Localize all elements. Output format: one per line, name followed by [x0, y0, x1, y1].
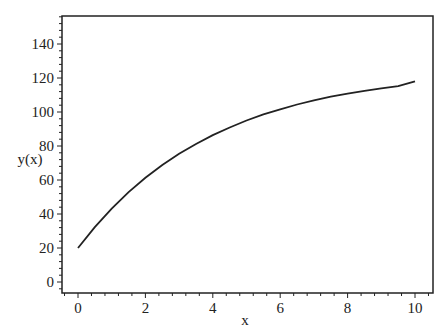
y-tick-label: 60: [39, 172, 54, 188]
y-tick-label: 120: [32, 70, 55, 86]
x-axis-title: x: [241, 312, 249, 328]
x-tick-label: 0: [74, 300, 82, 316]
y-tick-label: 0: [47, 274, 55, 290]
y-tick-label: 40: [39, 206, 54, 222]
line-chart: 020406080100120140 0246810 x y(x): [0, 0, 446, 334]
data-line: [78, 81, 415, 248]
y-tick-label: 140: [32, 36, 55, 52]
x-tick-label: 8: [344, 300, 352, 316]
x-tick-label: 10: [408, 300, 423, 316]
y-tick-label: 100: [32, 104, 55, 120]
x-tick-label: 6: [276, 300, 284, 316]
x-tick-label: 2: [142, 300, 150, 316]
y-tick-label: 20: [39, 240, 54, 256]
y-axis-title: y(x): [18, 151, 43, 168]
x-tick-label: 4: [209, 300, 217, 316]
plot-frame: [62, 16, 433, 293]
